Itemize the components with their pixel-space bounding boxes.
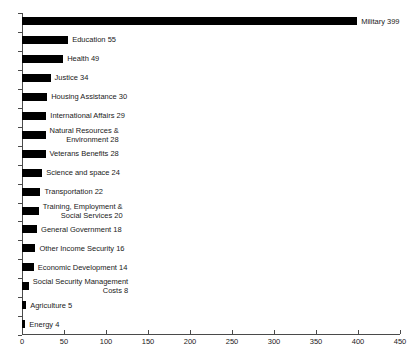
bar-chart: Military 399Education 55Health 49Justice… (0, 0, 414, 361)
y-axis-tick (18, 297, 22, 298)
bar-label-health: Health 49 (67, 54, 99, 63)
y-axis-tick (18, 13, 22, 14)
x-axis-tick (22, 330, 23, 334)
bar-veterans-benefits (22, 150, 46, 158)
y-axis-tick (18, 127, 22, 128)
y-axis-tick (18, 221, 22, 222)
bar-label-veterans-benefits: Veterans Benefits 28 (50, 149, 119, 158)
bar-agriculture (22, 301, 26, 309)
y-axis-tick (18, 240, 22, 241)
bar-label-natural-resources-environment: Natural Resources & Environment 28 (50, 126, 119, 144)
y-axis-tick (18, 278, 22, 279)
bar-justice (22, 74, 51, 82)
bar-natural-resources-environment (22, 131, 46, 139)
y-axis-tick (18, 32, 22, 33)
bar-label-international-affairs: International Affairs 29 (50, 111, 125, 120)
bar-label-training-employment-social: Training, Employment & Social Services 2… (43, 202, 123, 220)
y-axis-tick (18, 146, 22, 147)
bar-label-energy: Energy 4 (29, 320, 59, 329)
bar-label-science-and-space: Science and space 24 (46, 168, 120, 177)
x-axis-tick-label: 100 (100, 337, 113, 346)
y-axis-tick (18, 51, 22, 52)
x-axis-tick (148, 330, 149, 334)
bar-label-other-income-security: Other Income Security 16 (39, 244, 124, 253)
y-axis-tick (18, 165, 22, 166)
x-axis-tick (316, 330, 317, 334)
bar-social-security-management (22, 282, 29, 290)
bar-military (22, 17, 357, 25)
bar-label-education: Education 55 (72, 35, 116, 44)
y-axis-tick (18, 316, 22, 317)
x-axis-tick-label: 350 (310, 337, 323, 346)
bar-label-justice: Justice 34 (55, 73, 89, 82)
bar-training-employment-social (22, 207, 39, 215)
y-axis-tick (18, 259, 22, 260)
x-axis-tick-label: 150 (142, 337, 155, 346)
x-axis-tick (358, 330, 359, 334)
bar-economic-development (22, 263, 34, 271)
x-axis-tick-label: 50 (60, 337, 68, 346)
bar-housing-assistance (22, 93, 47, 101)
x-axis-tick (106, 330, 107, 334)
y-axis-tick (18, 89, 22, 90)
bar-international-affairs (22, 112, 46, 120)
y-axis-tick (18, 203, 22, 204)
y-axis-tick (18, 184, 22, 185)
x-axis-tick-label: 200 (184, 337, 197, 346)
x-axis-tick-label: 250 (226, 337, 239, 346)
bar-label-military: Military 399 (361, 17, 399, 26)
plot-area: Military 399Education 55Health 49Justice… (0, 0, 414, 361)
x-axis-tick (190, 330, 191, 334)
x-axis-tick-label: 300 (268, 337, 281, 346)
bar-science-and-space (22, 169, 42, 177)
y-axis-tick (18, 335, 22, 336)
bar-label-general-government: General Government 18 (41, 225, 121, 234)
bar-energy (22, 320, 25, 328)
bar-label-social-security-management: Social Security Management Costs 8 (33, 277, 128, 295)
bar-health (22, 55, 63, 63)
x-axis-tick-label: 450 (394, 337, 407, 346)
bar-other-income-security (22, 244, 35, 252)
x-axis-tick-label: 0 (20, 337, 24, 346)
y-axis-tick (18, 108, 22, 109)
bar-label-housing-assistance: Housing Assistance 30 (51, 92, 127, 101)
bar-general-government (22, 225, 37, 233)
y-axis-tick (18, 70, 22, 71)
bar-label-agriculture: Agriculture 5 (30, 301, 72, 310)
x-axis-tick (274, 330, 275, 334)
bar-label-economic-development: Economic Development 14 (38, 263, 128, 272)
x-axis-tick (64, 330, 65, 334)
bar-label-transportation: Transportation 22 (44, 187, 103, 196)
x-axis-line (22, 334, 400, 335)
x-axis-tick-label: 400 (352, 337, 365, 346)
bar-education (22, 36, 68, 44)
x-axis-tick (232, 330, 233, 334)
x-axis-tick (400, 330, 401, 334)
bar-transportation (22, 188, 40, 196)
